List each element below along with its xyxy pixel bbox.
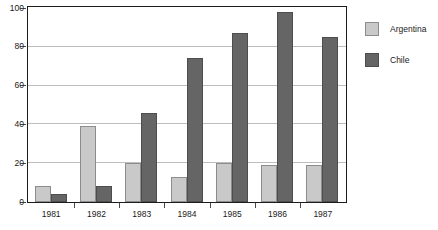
plot-area: [27, 6, 347, 203]
x-axis-tick-label: 1983: [132, 210, 151, 219]
x-axis-tick-label: 1984: [178, 210, 197, 219]
plot-inner: [28, 7, 346, 202]
bar-chile-1982: [96, 186, 112, 202]
bar-argentina-1987: [306, 165, 322, 202]
x-axis-tick-label: 1986: [268, 210, 287, 219]
y-axis-tick-label: 100: [0, 3, 24, 12]
bar-argentina-1985: [216, 163, 232, 202]
x-axis-tick-label: 1985: [223, 210, 242, 219]
x-axis-tick: [74, 203, 75, 208]
x-axis-tick: [255, 203, 256, 208]
legend-label-chile: Chile: [390, 56, 409, 65]
bar-argentina-1986: [261, 165, 277, 202]
bar-chile-1981: [51, 194, 67, 202]
bar-argentina-1981: [35, 186, 51, 202]
bar-argentina-1982: [80, 126, 96, 202]
legend-swatch-argentina: [365, 22, 379, 36]
y-axis-tick-label: 80: [0, 42, 24, 51]
x-axis-tick-label: 1987: [313, 210, 332, 219]
bar-chile-1986: [277, 12, 293, 202]
x-axis-tick: [300, 203, 301, 208]
x-axis-tick: [210, 203, 211, 208]
bar-argentina-1983: [125, 163, 141, 202]
bar-argentina-1984: [171, 177, 187, 202]
y-axis-tick-label: 0: [0, 197, 24, 206]
y-axis-tick-label: 20: [0, 158, 24, 167]
bar-chile-1983: [141, 113, 157, 202]
bar-chart: 020406080100 198119821983198419851986198…: [0, 0, 438, 230]
bar-chile-1985: [232, 33, 248, 202]
y-axis-tick-label: 60: [0, 81, 24, 90]
legend-swatch-chile: [365, 53, 379, 67]
bar-chile-1987: [322, 37, 338, 202]
x-axis-tick-label: 1982: [87, 210, 106, 219]
y-axis-tick-label: 40: [0, 120, 24, 129]
gridline: [28, 46, 346, 47]
x-axis-tick: [119, 203, 120, 208]
legend-item-argentina: Argentina: [365, 22, 438, 36]
legend-label-argentina: Argentina: [390, 25, 426, 34]
chart-legend: ArgentinaChile: [365, 22, 438, 84]
x-axis-tick: [164, 203, 165, 208]
bar-chile-1984: [187, 58, 203, 202]
legend-item-chile: Chile: [365, 53, 438, 67]
x-axis-tick-label: 1981: [42, 210, 61, 219]
